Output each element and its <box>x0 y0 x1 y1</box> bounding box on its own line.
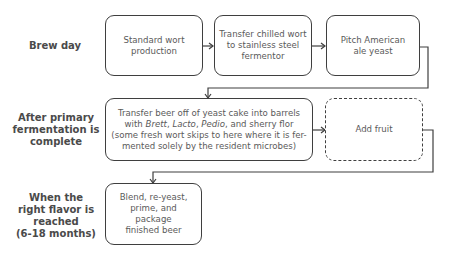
step-pitch-american-ale-yeast: Pitch American ale yeast <box>326 15 420 76</box>
step-standard-wort-production: Standard wort production <box>105 15 203 76</box>
text-fragment: , and sherry flor <box>225 119 294 129</box>
step-text: production <box>123 46 184 57</box>
microbe-lacto: Lacto <box>172 119 195 129</box>
microbe-brett: Brett <box>146 119 167 129</box>
step-text: Pitch American <box>341 35 406 46</box>
step-transfer-to-barrels: Transfer beer off of yeast cake into bar… <box>105 98 313 161</box>
microbe-pedio: Pedio <box>201 119 225 129</box>
step-text: fermentor <box>219 51 306 62</box>
step-text-microbes: with Brett, Lacto, Pedio, and sherry flo… <box>111 119 306 130</box>
step-text: Blend, re-yeast, <box>120 192 188 203</box>
step-blend-and-package: Blend, re-yeast, prime, and package fini… <box>105 183 202 245</box>
step-text: Transfer beer off of yeast cake into bar… <box>111 108 306 119</box>
step-text: (some fresh wort skips to here where it … <box>111 130 306 141</box>
step-text: Transfer chilled wort <box>219 29 306 40</box>
step-text: Add fruit <box>355 124 392 135</box>
step-text: to stainless steel <box>219 40 306 51</box>
step-text: mented solely by the resident microbes) <box>111 141 306 152</box>
step-add-fruit: Add fruit <box>325 98 423 161</box>
step-transfer-chilled-wort: Transfer chilled wort to stainless steel… <box>214 15 312 76</box>
step-text: Standard wort <box>123 35 184 46</box>
step-text: ale yeast <box>341 46 406 57</box>
step-text: prime, and <box>120 203 188 214</box>
step-text: package <box>120 214 188 225</box>
step-text: finished beer <box>120 225 188 236</box>
text-fragment: with <box>125 119 146 129</box>
